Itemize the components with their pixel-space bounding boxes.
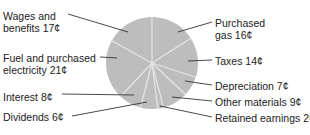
leader-line-8 xyxy=(68,14,128,32)
label-purchased-gas: Purchased gas 16¢ xyxy=(215,17,265,41)
label-dividends: Dividends 6¢ xyxy=(3,111,64,123)
label-taxes: Taxes 14¢ xyxy=(215,55,263,67)
label-fuel-electricity: Fuel and purchased electricity 21¢ xyxy=(3,52,96,76)
label-depreciation: Depreciation 7¢ xyxy=(215,80,289,92)
label-other-materials: Other materials 9¢ xyxy=(215,96,301,108)
leader-line-4 xyxy=(160,106,212,117)
leader-line-0 xyxy=(178,22,212,32)
label-retained-earnings: Retained earnings 2¢ xyxy=(215,112,310,124)
leader-line-5 xyxy=(72,102,147,116)
label-wages-benefits: Wages and benefits 17¢ xyxy=(3,10,60,34)
label-interest: Interest 8¢ xyxy=(3,91,53,103)
